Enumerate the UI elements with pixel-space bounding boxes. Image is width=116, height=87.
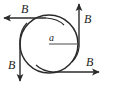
physics-figure: B B B B a [0, 0, 116, 87]
field-label-b-bottom-left: B [8, 59, 15, 71]
field-label-b-right: B [84, 13, 91, 25]
field-arrow-top-left-tail [46, 18, 64, 25]
field-label-b-bottom-right: B [86, 56, 93, 68]
figure-canvas [0, 0, 116, 87]
radius-label-a: a [49, 33, 54, 43]
field-label-b-top-left: B [21, 3, 28, 15]
